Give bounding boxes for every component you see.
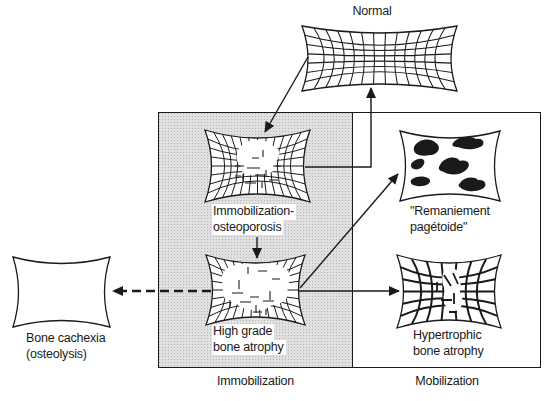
hypertrophic-bone-shape [397,255,501,328]
label-bone-cachexia: Bone cachexia (osteolysis) [26,331,105,362]
high-grade-bone-shape [206,255,305,325]
normal-bone-shape [302,26,457,91]
label-hypertrophic-bone-atrophy: Hypertrophic bone atrophy [413,328,484,359]
diagram-canvas: Normal Immobilization- osteoporosis "Rem… [0,0,553,401]
zone-label-mobilization: Mobilization [353,374,541,390]
cachexia-bone-shape [13,257,110,327]
label-normal: Normal [303,4,441,20]
zone-label-immobilization: Immobilization [158,374,353,390]
pagetoide-bone-shape [400,131,500,201]
label-remaniement-pagetoide: "Remaniement pagétoide" [410,204,490,235]
label-high-grade-bone-atrophy: High grade bone atrophy [212,324,286,355]
arrow-normal-to-osteoporosis [265,57,308,132]
arrow-osteoporosis-to-normal [305,88,371,167]
label-immobilization-osteoporosis: Immobilization- osteoporosis [212,204,296,235]
label-normal-text: Normal [303,4,441,20]
arrow-high-grade-to-pagetoide [300,174,398,288]
osteoporosis-bone-shape [205,130,310,202]
